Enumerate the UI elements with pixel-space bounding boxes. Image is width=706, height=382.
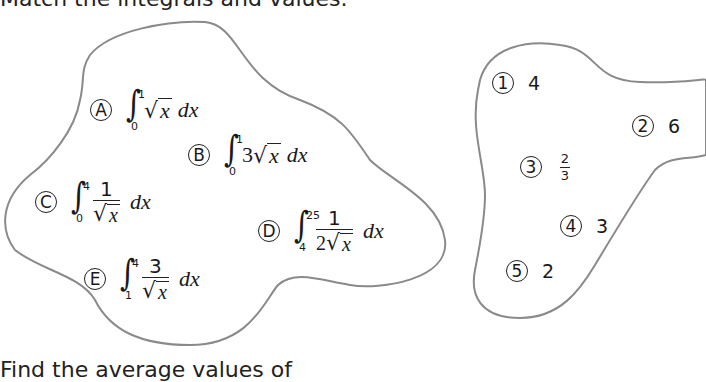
integral-sign: ∫ 4 1: [118, 259, 138, 299]
value-text: 6: [668, 115, 680, 137]
label-circle-b: B: [188, 144, 210, 166]
integral-sign: ∫ 25 4: [292, 211, 312, 251]
integral-item-b[interactable]: B ∫ 1 0 3 √x dx: [188, 135, 308, 175]
value-text: 3: [596, 215, 608, 237]
value-item-1[interactable]: 1 4: [492, 72, 540, 94]
integral-item-e[interactable]: E ∫ 4 1 3 √x dx: [84, 255, 200, 303]
label-circle-a: A: [90, 99, 112, 121]
label-circle-d: D: [258, 220, 280, 242]
sqrt-expression: √x: [144, 98, 172, 123]
integral-sign: ∫ 1 0: [124, 90, 144, 130]
label-circle-5: 5: [506, 260, 528, 282]
integral-item-d[interactable]: D ∫ 25 4 1 2√x dx: [258, 207, 384, 255]
value-text: 2: [542, 260, 554, 282]
value-item-3[interactable]: 3 2 3: [520, 152, 570, 182]
label-circle-e: E: [84, 268, 106, 290]
value-fraction: 2 3: [560, 152, 570, 182]
label-circle-c: C: [35, 191, 57, 213]
footer-text: Find the average values of: [0, 357, 292, 382]
fraction: 1 √x: [93, 178, 120, 226]
integral-item-c[interactable]: C ∫ 4 0 1 √x dx: [35, 178, 151, 226]
integral-sign: ∫ 1 0: [222, 135, 242, 175]
fraction: 3 √x: [142, 255, 169, 303]
value-text: 4: [528, 72, 540, 94]
label-circle-4: 4: [560, 215, 582, 237]
integral-item-a[interactable]: A ∫ 1 0 √x dx: [90, 90, 199, 130]
label-circle-2: 2: [632, 115, 654, 137]
label-circle-3: 3: [520, 156, 542, 178]
label-circle-1: 1: [492, 72, 514, 94]
value-item-4[interactable]: 4 3: [560, 215, 608, 237]
value-item-5[interactable]: 5 2: [506, 260, 554, 282]
sqrt-expression: √x: [253, 143, 281, 168]
fraction: 1 2√x: [316, 207, 353, 255]
integral-sign: ∫ 4 0: [69, 182, 89, 222]
value-item-2[interactable]: 2 6: [632, 115, 680, 137]
